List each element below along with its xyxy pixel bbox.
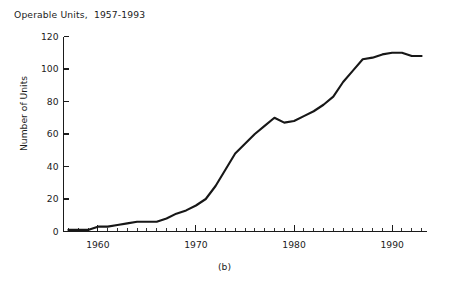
y-tick-label-60: 60 [47, 128, 59, 139]
y-tick-label-100: 100 [41, 63, 59, 74]
x-tick-label-1970: 1970 [184, 239, 208, 250]
y-tick-label-group: 020406080100120 [41, 31, 59, 237]
y-tick-label-120: 120 [41, 31, 59, 42]
x-tick-label-1980: 1980 [282, 239, 306, 250]
y-tick-label-80: 80 [47, 96, 59, 107]
line-chart-plot: 020406080100120 1960197019801990 [0, 0, 449, 288]
axis-tick-group [64, 37, 422, 232]
figure-panel: Operable Units, 1957-1993 Number of Unit… [0, 0, 449, 288]
data-series-line [68, 53, 421, 230]
x-tick-label-1960: 1960 [86, 239, 110, 250]
y-tick-label-40: 40 [47, 161, 59, 172]
y-tick-label-0: 0 [53, 226, 59, 237]
figure-caption: (b) [0, 261, 449, 272]
x-tick-label-group: 1960197019801990 [86, 239, 404, 250]
y-tick-label-20: 20 [47, 193, 59, 204]
x-tick-label-1990: 1990 [380, 239, 404, 250]
